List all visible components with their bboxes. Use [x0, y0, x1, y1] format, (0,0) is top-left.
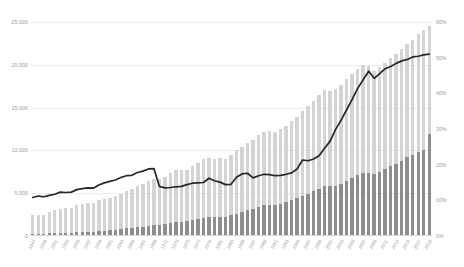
- x-axis-tick-label: 1967: [137, 239, 146, 250]
- x-axis-tick-label: 2015: [402, 239, 411, 250]
- y-axis-right-tick-label: 40%: [436, 90, 464, 96]
- x-axis-tick-label: 1997: [303, 239, 312, 250]
- y-axis-right-tick-label: 50%: [436, 55, 464, 61]
- x-axis-tick-label: 2017: [413, 239, 422, 250]
- x-axis-tick-label: 1959: [93, 239, 102, 250]
- x-axis-tick-label: 2003: [336, 239, 345, 250]
- y-axis-left-tick-label: 25,000: [0, 19, 28, 25]
- x-axis-tick-label: 1989: [259, 239, 268, 250]
- chart-container: 05,00010,00015,00020,00025,000 0%10%20%3…: [0, 0, 464, 267]
- x-axis-tick-label: 1961: [104, 239, 113, 250]
- x-axis-tick-label: 1999: [314, 239, 323, 250]
- x-axis-tick-label: 2013: [391, 239, 400, 250]
- x-axis-tick-label: 1981: [214, 239, 223, 250]
- x-axis-tick-label: 2001: [325, 239, 334, 250]
- line-series-path: [33, 54, 430, 197]
- y-axis-left-tick-label: 20,000: [0, 62, 28, 68]
- x-axis-tick-label: 2011: [380, 239, 389, 250]
- x-axis-tick-label: 2019: [424, 239, 433, 250]
- x-axis-tick-label: 1995: [292, 239, 301, 250]
- plot-area: [30, 22, 432, 236]
- x-axis-tick-label: 1985: [237, 239, 246, 250]
- x-axis-tick-label: 1971: [159, 239, 168, 250]
- x-axis-tick-label: 1947: [27, 239, 36, 250]
- y-axis-right-tick-label: 20%: [436, 162, 464, 168]
- x-axis-tick-label: 1979: [203, 239, 212, 250]
- x-axis-tick-label: 1949: [38, 239, 47, 250]
- x-axis-ticks: 1947194919511953195519571959196119631965…: [30, 238, 432, 267]
- x-axis-tick-label: 1977: [192, 239, 201, 250]
- x-axis-tick-label: 1963: [115, 239, 124, 250]
- x-axis-tick-label: 1991: [270, 239, 279, 250]
- x-axis-tick-label: 1957: [82, 239, 91, 250]
- y-axis-right-tick-label: 30%: [436, 126, 464, 132]
- line-series-layer: [30, 22, 432, 236]
- x-axis-tick-label: 1983: [226, 239, 235, 250]
- x-axis-tick-label: 1955: [71, 239, 80, 250]
- y-axis-left-tick-label: 0: [0, 233, 28, 239]
- y-axis-right-tick-label: 60%: [436, 19, 464, 25]
- x-axis-tick-label: 1993: [281, 239, 290, 250]
- y-axis-left-tick-label: 5,000: [0, 190, 28, 196]
- x-axis-tick-label: 1975: [181, 239, 190, 250]
- x-axis-tick-label: 2007: [358, 239, 367, 250]
- x-axis-tick-label: 1951: [49, 239, 58, 250]
- y-axis-left-tick-label: 15,000: [0, 105, 28, 111]
- zero-baseline: [30, 235, 432, 236]
- x-axis-tick-label: 1973: [170, 239, 179, 250]
- y-axis-left-tick-label: 10,000: [0, 147, 28, 153]
- y-axis-right-tick-label: 0%: [436, 233, 464, 239]
- x-axis-tick-label: 1987: [248, 239, 257, 250]
- y-axis-right-tick-label: 10%: [436, 197, 464, 203]
- x-axis-tick-label: 1965: [126, 239, 135, 250]
- x-axis-tick-label: 1969: [148, 239, 157, 250]
- x-axis-tick-label: 1953: [60, 239, 69, 250]
- x-axis-tick-label: 2005: [347, 239, 356, 250]
- x-axis-tick-label: 2009: [369, 239, 378, 250]
